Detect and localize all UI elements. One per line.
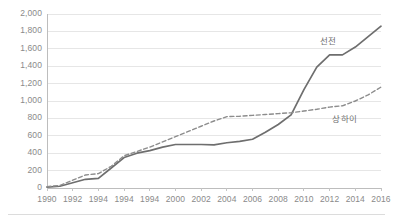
line-chart: 02004006008001,0001,2001,4001,6001,8002,… (0, 0, 393, 223)
series-paths (47, 26, 381, 187)
y-tick-label: 1,600 (6, 43, 42, 53)
y-tick-label: 1,400 (6, 60, 42, 70)
series-label-0: 선전 (320, 34, 336, 46)
y-tick-label: 800 (6, 112, 42, 122)
y-tick-label: 2,000 (6, 8, 42, 18)
y-tick-label: 400 (6, 147, 42, 157)
y-tick-label: 1,200 (6, 78, 42, 88)
y-tick-label: 1,800 (6, 25, 42, 35)
footer-divider (8, 214, 385, 215)
y-tick-label: 200 (6, 165, 42, 175)
y-tick-label: 0 (6, 182, 42, 192)
y-tick-label: 600 (6, 130, 42, 140)
y-tick-label: 1,000 (6, 95, 42, 105)
x-tick-label: 2016 (364, 194, 393, 204)
series-label-1: 상하이 (332, 112, 357, 124)
series-line-1 (47, 87, 381, 187)
